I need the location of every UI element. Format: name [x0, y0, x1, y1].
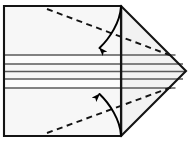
origami-diagram: Origami fold step diagram: [0, 0, 188, 143]
diagram-canvas: [0, 0, 188, 143]
upper-body-fill: [4, 6, 121, 55]
upper-band-fill: [4, 55, 121, 64]
lower-band-fill: [4, 79, 121, 88]
lower-body-fill: [4, 88, 121, 136]
